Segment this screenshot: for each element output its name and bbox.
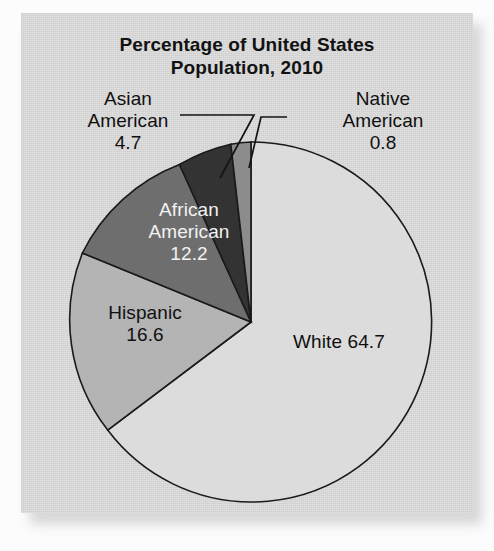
- pie-label-hispanic: Hispanic 16.6: [75, 302, 215, 346]
- pie-label-white: White 64.7: [259, 331, 419, 353]
- pie-label-native-american: Native American 0.8: [313, 88, 453, 154]
- pie-label-asian-american: Asian American 4.7: [55, 88, 201, 154]
- figure-panel: Percentage of United States Population, …: [21, 13, 473, 513]
- pie-label-african-american: African American 12.2: [121, 199, 257, 265]
- page-background: Percentage of United States Population, …: [0, 0, 494, 551]
